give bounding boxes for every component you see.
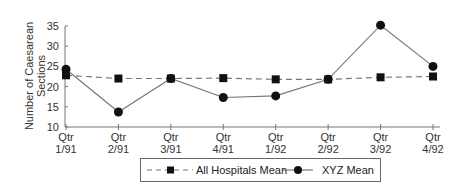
y-tick-label: 20 — [47, 81, 59, 93]
y-tick-label: 10 — [47, 121, 59, 133]
legend-marker-circle — [294, 166, 302, 174]
axes: 101520253035Qtr1/91Qtr2/91Qtr3/91Qtr4/91… — [47, 20, 444, 155]
y-tick-label: 30 — [47, 40, 59, 52]
data-point-square — [219, 74, 227, 82]
data-point-square — [272, 75, 280, 83]
y-tick-label: 35 — [47, 20, 59, 32]
data-point-circle — [166, 74, 175, 83]
x-tick-label: Qtr1/91 — [55, 131, 76, 155]
legend-label-xyz: XYZ Mean — [322, 164, 374, 176]
data-point-circle — [219, 93, 228, 102]
x-tick-label: Qtr2/91 — [108, 131, 129, 155]
data-point-square — [377, 73, 385, 81]
legend-marker-square — [167, 167, 174, 174]
series-xyz-mean — [62, 21, 438, 117]
data-point-square — [429, 73, 437, 81]
y-axis-title: Number of CaesareanSections — [23, 22, 47, 130]
x-tick-label: Qtr3/92 — [370, 131, 391, 155]
legend-label-all-hospitals: All Hospitals Mean — [196, 164, 287, 176]
data-point-circle — [271, 91, 280, 100]
y-axis-title-text: Number of CaesareanSections — [23, 22, 47, 130]
x-tick-label: Qtr2/92 — [317, 131, 338, 155]
y-tick-label: 25 — [47, 60, 59, 72]
x-tick-label: Qtr4/92 — [422, 131, 443, 155]
data-point-square — [114, 75, 122, 83]
data-point-circle — [429, 62, 438, 71]
data-point-circle — [376, 21, 385, 30]
series-layer — [62, 21, 438, 117]
x-tick-label: Qtr3/91 — [160, 131, 181, 155]
legend: All Hospitals MeanXYZ Mean — [141, 159, 381, 182]
x-tick-label: Qtr4/91 — [213, 131, 234, 155]
data-point-circle — [324, 75, 333, 84]
data-point-circle — [62, 65, 71, 74]
y-tick-label: 15 — [47, 101, 59, 113]
data-point-circle — [114, 108, 123, 117]
series-line — [66, 25, 433, 112]
line-chart: Number of CaesareanSections 101520253035… — [0, 0, 465, 193]
x-tick-label: Qtr1/92 — [265, 131, 286, 155]
series-all-hospitals-mean — [62, 71, 437, 83]
